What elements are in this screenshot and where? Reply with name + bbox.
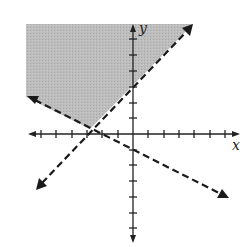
arrow-head-icon (217, 189, 229, 198)
y-axis-label: y (138, 20, 148, 36)
shaded-solution-region (26, 24, 193, 129)
x-axis (28, 130, 240, 138)
inequality-graph: x y (0, 0, 247, 247)
boundary-line-falling (27, 96, 229, 198)
x-axis-label: x (232, 137, 240, 153)
